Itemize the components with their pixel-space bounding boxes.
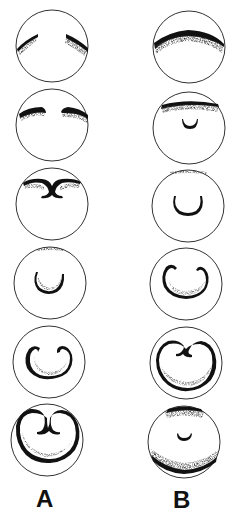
column-label-a: A: [36, 487, 53, 511]
embryo-diagram: [0, 0, 233, 518]
stage-b6: [148, 406, 220, 478]
stage-b4: [150, 248, 222, 320]
stage-b1: [153, 11, 225, 83]
column-b: [148, 11, 225, 478]
stage-a3: [16, 168, 88, 240]
stage-b3: [152, 170, 224, 242]
stage-a5: [13, 326, 85, 398]
stage-b2: [153, 92, 225, 164]
column-label-b: B: [173, 488, 190, 512]
stage-a4: [14, 247, 86, 319]
stage-a2: [16, 89, 88, 161]
stage-a6: [11, 404, 83, 476]
stage-a1: [16, 10, 88, 82]
stage-b5: [150, 327, 222, 399]
column-a: [11, 10, 88, 476]
